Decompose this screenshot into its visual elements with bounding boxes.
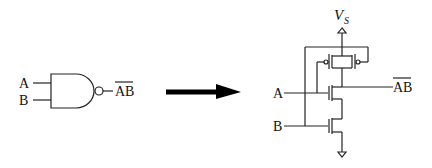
pmos-a bbox=[317, 54, 332, 69]
pmos-b bbox=[352, 54, 360, 69]
cmos-nand-circuit: V S AB A B bbox=[273, 7, 412, 157]
circuit-input-a-label: A bbox=[273, 86, 284, 101]
arrow-head bbox=[216, 84, 241, 99]
nand-gate-body bbox=[51, 74, 94, 108]
pmos-b-bubble bbox=[356, 60, 360, 64]
gate-input-b-label: B bbox=[19, 93, 28, 108]
transform-arrow bbox=[166, 84, 241, 99]
supply-symbol bbox=[338, 28, 346, 33]
nmos-a bbox=[329, 85, 342, 101]
circuit-output-label: AB bbox=[393, 80, 412, 95]
gate-output-label: AB bbox=[115, 84, 134, 99]
supply-subscript: S bbox=[344, 15, 349, 26]
nand-gate-symbol: A B AB bbox=[19, 74, 134, 108]
ground-symbol bbox=[338, 152, 346, 157]
pmos-a-bubble bbox=[324, 60, 328, 64]
gate-input-a-label: A bbox=[19, 76, 30, 91]
circuit-input-b-label: B bbox=[273, 119, 282, 134]
nmos-b bbox=[329, 118, 342, 134]
inversion-bubble bbox=[95, 87, 103, 95]
nand-diagram: A B AB V S bbox=[0, 0, 432, 168]
